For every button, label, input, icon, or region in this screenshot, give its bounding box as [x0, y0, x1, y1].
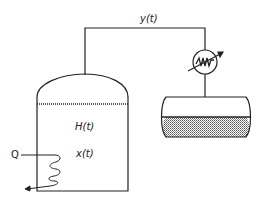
still-pot: [37, 74, 128, 191]
distillation-diagram: y(t) H(t) x(t) Q: [0, 0, 261, 206]
heat-label: Q: [11, 149, 19, 160]
holdup-label: H(t): [75, 121, 94, 132]
heating-coil: [21, 155, 60, 191]
arrow-head-icon: [218, 52, 223, 57]
condenser: [188, 50, 223, 74]
distillate-liquid: [163, 117, 249, 137]
vapor-line: [85, 28, 205, 97]
accumulator: [162, 97, 251, 137]
vapor-label: y(t): [139, 13, 158, 24]
composition-label: x(t): [75, 148, 94, 159]
arrow-head-icon: [25, 186, 30, 191]
